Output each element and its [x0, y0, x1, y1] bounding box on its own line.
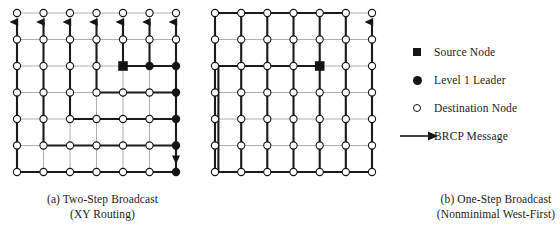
- legend-label-source-node: Source Node: [434, 46, 495, 58]
- down-arrow-icon-a: [172, 156, 180, 165]
- legend-label-brcp-message: BRCP Message: [434, 130, 508, 142]
- panel-one-step-broadcast: (b) One-Step Broadcast (Nonminimal West-…: [198, 0, 398, 238]
- source-node-a: [118, 61, 128, 71]
- legend-label-level-1-leader: Level 1 Leader: [434, 74, 506, 86]
- legend-item-destination-node: Destination Node: [400, 94, 541, 122]
- caption-a-line1: (a) Two-Step Broadcast: [47, 193, 158, 205]
- open-circle-icon: [400, 104, 434, 112]
- caption-panel-b: (b) One-Step Broadcast (Nonminimal West-…: [396, 192, 560, 222]
- mesh-diagram-a: [0, 0, 205, 190]
- legend-item-level-1-leader: Level 1 Leader: [400, 66, 541, 94]
- legend: Source Node Level 1 Leader Destination N…: [400, 38, 541, 150]
- legend-label-destination-node: Destination Node: [434, 102, 517, 114]
- caption-a-line2: (XY Routing): [0, 207, 205, 222]
- caption-b-line1: (b) One-Step Broadcast: [441, 193, 552, 205]
- source-node-b: [315, 61, 325, 71]
- filled-square-icon: [400, 48, 434, 56]
- caption-b-line2: (Nonminimal West-First): [396, 207, 560, 222]
- caption-panel-a: (a) Two-Step Broadcast (XY Routing): [0, 192, 205, 222]
- panel-two-step-broadcast: (a) Two-Step Broadcast (XY Routing): [0, 0, 205, 238]
- filled-circle-icon: [400, 76, 434, 85]
- mesh-diagram-b: [198, 0, 398, 190]
- legend-item-brcp-message: BRCP Message: [400, 122, 541, 150]
- legend-item-source-node: Source Node: [400, 38, 541, 66]
